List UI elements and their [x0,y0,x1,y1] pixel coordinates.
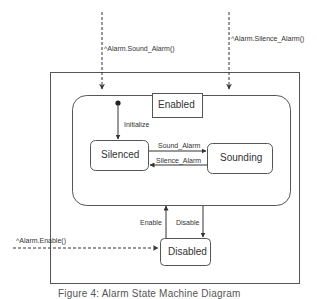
silence-alarm-transition-label: Silence_Alarm [156,157,201,164]
sounding-state-label: Sounding [220,153,262,163]
silence-alarm-event-label: ^Alarm.Silence_Alarm() [231,35,304,42]
initialize-transition-label: Initialize [124,121,149,128]
sound-alarm-transition-label: Sound_Alarm [158,142,200,149]
sound-alarm-event-label: ^Alarm.Sound_Alarm() [104,45,175,52]
figure-caption: Figure 4: Alarm State Machine Diagram [58,289,240,299]
enable-event-label: ^Alarm.Enable() [16,237,66,244]
enable-transition-label: Enable [140,219,162,226]
disable-transition-label: Disable [176,219,199,226]
enabled-state-label: Enabled [158,100,195,110]
disabled-state-label: Disabled [168,247,207,257]
silenced-state-label: Silenced [101,150,139,160]
